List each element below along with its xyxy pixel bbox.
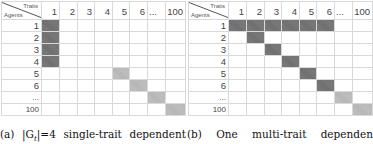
empty-cell <box>317 44 335 56</box>
agent-row: 3 <box>2 44 186 56</box>
agents-axis-label: Agents <box>191 12 210 18</box>
dependency-cell-light <box>130 80 148 92</box>
empty-cell <box>335 104 353 116</box>
trait-column-header: 5 <box>300 2 317 20</box>
caption-word: multi-trait <box>252 128 306 140</box>
empty-cell <box>130 44 148 56</box>
agent-row: 4 <box>2 56 186 68</box>
empty-cell <box>78 20 95 32</box>
empty-cell <box>78 92 95 104</box>
empty-cell <box>60 92 78 104</box>
dependency-cell-dark <box>265 20 282 32</box>
empty-cell <box>335 20 353 32</box>
empty-cell <box>353 32 373 44</box>
empty-cell <box>113 20 130 32</box>
empty-cell <box>335 68 353 80</box>
agent-row: ... <box>189 92 373 104</box>
empty-cell <box>282 32 300 44</box>
empty-cell <box>335 56 353 68</box>
agent-row: 2 <box>2 32 186 44</box>
empty-cell <box>229 68 247 80</box>
dependency-cell-light <box>113 68 130 80</box>
caption-b: (b) One multi-trait dependen <box>187 128 373 140</box>
empty-cell <box>113 56 130 68</box>
dependency-cell-dark <box>42 20 60 32</box>
trait-column-header: ... <box>335 2 353 20</box>
empty-cell <box>353 92 373 104</box>
agent-row: 6 <box>189 80 373 92</box>
empty-cell <box>317 68 335 80</box>
empty-cell <box>113 80 130 92</box>
empty-cell <box>60 68 78 80</box>
caption-math: |Gt|=4 <box>22 128 56 143</box>
caption-word: One <box>216 128 238 140</box>
empty-cell <box>95 68 113 80</box>
empty-cell <box>95 56 113 68</box>
empty-cell <box>130 92 148 104</box>
empty-cell <box>60 20 78 32</box>
empty-cell <box>78 44 95 56</box>
agent-row: 6 <box>2 80 186 92</box>
trait-column-header: 2 <box>247 2 265 20</box>
trait-column-header: 1 <box>229 2 247 20</box>
dependency-cell-light <box>166 104 186 116</box>
dependency-cell-dark <box>42 56 60 68</box>
agent-row: 100 <box>189 104 373 116</box>
empty-cell <box>353 20 373 32</box>
agent-row: ... <box>2 92 186 104</box>
empty-cell <box>300 32 317 44</box>
dependency-cell-light <box>335 92 353 104</box>
empty-cell <box>166 80 186 92</box>
caption-word: single-trait <box>63 128 121 143</box>
empty-cell <box>148 44 166 56</box>
agent-row-label: 3 <box>189 44 229 56</box>
empty-cell <box>335 80 353 92</box>
agent-row-label: ... <box>2 92 42 104</box>
empty-cell <box>78 104 95 116</box>
empty-cell <box>229 104 247 116</box>
dependency-cell-dark <box>317 80 335 92</box>
empty-cell <box>282 80 300 92</box>
empty-cell <box>113 32 130 44</box>
empty-cell <box>113 44 130 56</box>
caption-label: (a) <box>0 128 14 143</box>
trait-column-header: 6 <box>130 2 148 20</box>
agent-row-label: 1 <box>2 20 42 32</box>
empty-cell <box>229 80 247 92</box>
agent-row: 3 <box>189 44 373 56</box>
empty-cell <box>166 92 186 104</box>
empty-cell <box>335 44 353 56</box>
empty-cell <box>229 32 247 44</box>
trait-column-header: 2 <box>60 2 78 20</box>
agent-row: 2 <box>189 32 373 44</box>
empty-cell <box>148 104 166 116</box>
agent-row-label: 100 <box>189 104 229 116</box>
empty-cell <box>229 56 247 68</box>
trait-column-header: 4 <box>282 2 300 20</box>
empty-cell <box>148 20 166 32</box>
trait-column-header: 4 <box>95 2 113 20</box>
empty-cell <box>42 104 60 116</box>
agent-row-label: 6 <box>2 80 42 92</box>
empty-cell <box>113 104 130 116</box>
empty-cell <box>247 92 265 104</box>
empty-cell <box>78 68 95 80</box>
dependency-cell-dark <box>300 20 317 32</box>
empty-cell <box>300 56 317 68</box>
empty-cell <box>265 32 282 44</box>
empty-cell <box>42 92 60 104</box>
agent-row: 4 <box>189 56 373 68</box>
empty-cell <box>353 56 373 68</box>
empty-cell <box>265 56 282 68</box>
dependency-cell-dark <box>282 56 300 68</box>
empty-cell <box>130 68 148 80</box>
empty-cell <box>60 44 78 56</box>
agent-row: 1 <box>189 20 373 32</box>
panel-a-single-trait: TraitsAgents123456...100123456...100 (a)… <box>0 0 186 144</box>
empty-cell <box>265 104 282 116</box>
agent-row-label: 5 <box>2 68 42 80</box>
dependency-cell-dark <box>300 68 317 80</box>
agent-row: 5 <box>2 68 186 80</box>
empty-cell <box>166 20 186 32</box>
empty-cell <box>317 56 335 68</box>
